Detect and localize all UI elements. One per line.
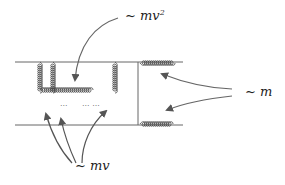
label-ultrasoft: ~ mv2 [125, 8, 165, 23]
label-soft: ~ mv [75, 158, 110, 173]
hard-arrow-bottom [167, 96, 232, 110]
ultrasoft-gluon [40, 88, 93, 93]
ultrasoft-arrow [75, 18, 118, 80]
label-hard: ~ m [245, 84, 272, 99]
soft-arrow-1 [46, 114, 72, 163]
dots-left: ··· [60, 101, 68, 110]
dots-right: ··· ··· [82, 101, 100, 110]
hard-gluon-bottom [140, 122, 173, 127]
soft-arrow-3 [82, 111, 106, 163]
soft-gluon-3 [113, 62, 118, 93]
feynman-diagram: ··· ··· ··· [0, 0, 285, 185]
hard-gluon-top [140, 61, 175, 66]
hard-arrow-top [162, 74, 232, 89]
soft-arrow-2 [61, 119, 76, 163]
